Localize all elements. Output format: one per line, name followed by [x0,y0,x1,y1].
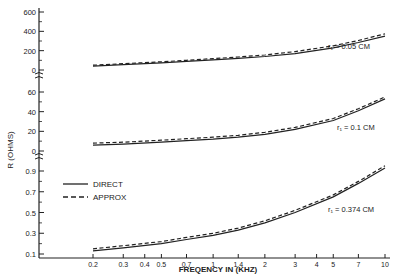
direct-curve [93,36,385,66]
curves [93,34,385,251]
x-tick-label: 10 [381,261,389,268]
y-axis-label: R (OHMS) [6,131,15,169]
annotation-r005: r₁ = 0.05 CM [328,42,370,51]
y-tick-label: 600 [23,8,36,17]
x-tick-label: 5 [331,261,335,268]
legend-approx-label: APPROX [93,193,127,202]
annotation-r0374: r₁ = 0.374 CM [328,205,374,214]
y-tick-label: 60 [28,88,36,97]
approx-curve [93,97,385,143]
x-tick-label: 0.4 [140,261,150,268]
y-tick-label: 20 [28,127,36,136]
direct-curve [93,99,385,145]
y-tick-label: 0.7 [26,188,36,197]
y-tick-label: 40 [28,108,36,117]
y-tick-label: 0.3 [26,229,36,238]
x-tick-label: 7 [356,261,360,268]
y-tick-label: 200 [23,47,36,56]
y-tick-label: 400 [23,27,36,36]
x-axis-label: FREQENCY IN (KHZ) [179,265,258,274]
legend: DIRECT APPROX [63,180,127,202]
legend-direct-label: DIRECT [93,180,123,189]
x-tick-label: 4 [315,261,319,268]
x-tick-label: 2 [263,261,267,268]
y-tick-label: 0.5 [26,209,36,218]
annotation-r01: r₁ = 0.1 CM [337,123,375,132]
x-tick-label: 0.3 [118,261,128,268]
y-tick-label: 0.1 [26,250,36,259]
chart: 0.20.30.40.50.711.4234571060040020006040… [0,0,397,280]
x-tick-label: 0.5 [157,261,167,268]
x-tick-label: 3 [293,261,297,268]
y-tick-label: 0.9 [26,167,36,176]
x-tick-label: 0.2 [88,261,98,268]
